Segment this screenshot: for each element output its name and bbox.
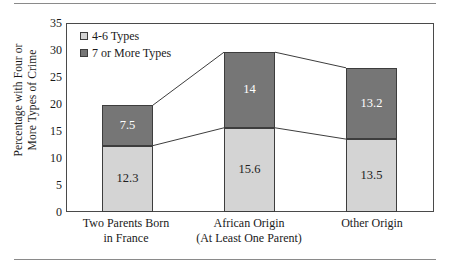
figure-container: Percentage with Four or More Types of Cr… — [0, 0, 450, 272]
bar-3-segment-7-or-more-types[interactable]: 13.2 — [346, 68, 397, 139]
y-tick-label-30: 30 — [36, 44, 62, 56]
legend-swatch-icon-7-or-more-types — [80, 49, 88, 57]
legend-label-7-or-more-types: 7 or More Types — [92, 45, 171, 61]
legend-swatch-icon-4-6-types — [80, 32, 88, 40]
bar-3-label-4-6-types: 13.5 — [361, 168, 383, 183]
x-axis-label-african-origin: African Origin (At Least One Parent) — [185, 216, 313, 246]
bar-2-segment-7-or-more-types[interactable]: 14 — [224, 52, 275, 128]
x-axis-label-2-line-2: (At Least One Parent) — [185, 231, 313, 246]
bar-2-label-7-or-more-types: 14 — [243, 82, 256, 97]
bar-1-label-7-or-more-types: 7.5 — [120, 118, 136, 133]
x-axis-label-2-line-1: African Origin — [185, 216, 313, 231]
legend: 4-6 Types 7 or More Types — [80, 28, 171, 62]
y-tick-label-10: 10 — [36, 152, 62, 164]
bar-3-label-7-or-more-types: 13.2 — [361, 96, 383, 111]
legend-item-4-6-types[interactable]: 4-6 Types — [80, 28, 171, 44]
bar-1-segment-4-6-types[interactable]: 12.3 — [102, 146, 153, 212]
bar-3-segment-4-6-types[interactable]: 13.5 — [346, 139, 397, 212]
y-tick-label-0: 0 — [36, 206, 62, 218]
bar-2-segment-4-6-types[interactable]: 15.6 — [224, 128, 275, 212]
y-axis-title-line-1: Percentage with Four or — [11, 0, 25, 200]
x-axis-label-two-parents-born-in-france: Two Parents Born in France — [62, 216, 190, 246]
bar-1-segment-7-or-more-types[interactable]: 7.5 — [102, 105, 153, 146]
y-tick-label-15: 15 — [36, 125, 62, 137]
y-tick-label-20: 20 — [36, 98, 62, 110]
bar-1-label-4-6-types: 12.3 — [117, 171, 139, 186]
x-axis-label-1-line-1: Two Parents Born — [62, 216, 190, 231]
top-rule — [14, 3, 436, 4]
y-tick-label-35: 35 — [36, 17, 62, 29]
x-axis-label-3-line-1: Other Origin — [308, 216, 436, 231]
y-tick-label-5: 5 — [36, 179, 62, 191]
bar-2-label-4-6-types: 15.6 — [239, 162, 261, 177]
bottom-rule — [14, 259, 436, 260]
y-tick-label-25: 25 — [36, 71, 62, 83]
legend-label-4-6-types: 4-6 Types — [92, 28, 139, 44]
x-axis-label-other-origin: Other Origin — [308, 216, 436, 231]
legend-item-7-or-more-types[interactable]: 7 or More Types — [80, 45, 171, 61]
x-axis-label-1-line-2: in France — [62, 231, 190, 246]
